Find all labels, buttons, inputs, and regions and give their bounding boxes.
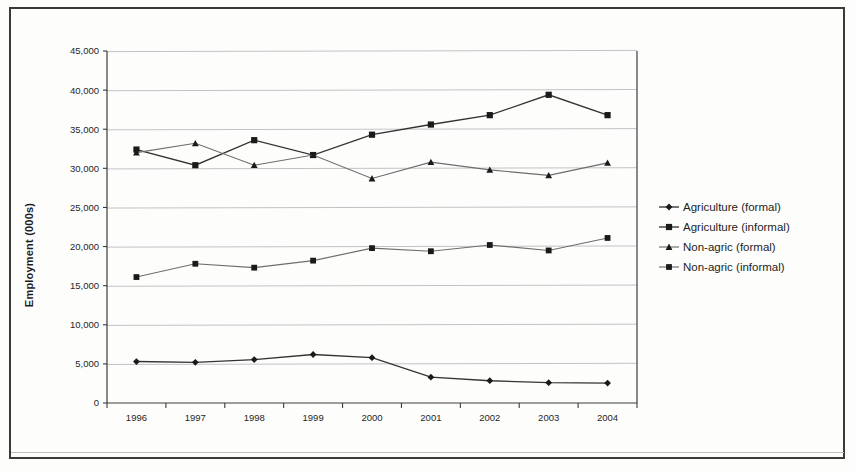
data-point [251,137,257,143]
data-point [133,358,140,365]
chart-page: Employment (000s) 05,00010,00015,00020,0… [0,0,855,472]
legend-marker-icon [666,224,672,230]
y-tick-label: 35,000 [70,124,99,135]
gridline [107,168,637,169]
gridline [107,90,637,91]
x-tick-label: 2001 [420,412,441,423]
gridline [107,207,637,208]
legend-label: Agriculture (informal) [683,221,790,233]
x-tick-label: 1999 [303,412,324,423]
data-point [192,140,199,146]
data-point [428,121,434,127]
y-tick-label: 30,000 [70,163,99,174]
y-tick-label: 5,000 [75,358,99,369]
x-tick-label: 2002 [479,412,500,423]
series-1 [133,351,611,386]
legend-label: Agriculture (formal) [683,201,781,213]
legend-label: Non-agric (formal) [683,241,776,253]
data-point [310,351,317,358]
gridline [107,129,637,130]
data-point [192,162,198,168]
data-point [605,235,611,241]
legend-marker-icon [666,264,672,270]
data-point [310,258,316,264]
y-axis-title: Employment (000s) [23,203,35,307]
legend-item-2[interactable]: Agriculture (informal) [659,221,790,233]
gridline [107,50,637,51]
data-point [369,354,376,361]
data-point [546,248,552,254]
data-point [604,159,611,165]
data-point [192,261,198,267]
chart-legend: Agriculture (formal)Agriculture (informa… [659,201,790,273]
legend-marker-icon [666,204,673,211]
data-point [487,242,493,248]
x-tick-label: 1997 [185,412,206,423]
data-point [487,112,493,118]
y-tick-label: 45,000 [70,45,99,56]
y-tick-label: 15,000 [70,280,99,291]
data-point [251,265,257,271]
x-tick-label: 2000 [361,412,382,423]
series-4 [134,235,611,280]
y-tick-label: 0 [94,397,99,408]
x-tick-label: 2004 [597,412,618,423]
y-tick-label: 25,000 [70,202,99,213]
x-tick-label: 2003 [538,412,559,423]
legend-item-1[interactable]: Agriculture (formal) [659,201,781,213]
data-point [369,245,375,251]
data-point [251,356,258,363]
legend-label: Non-agric (informal) [683,261,785,273]
series-line [136,238,607,277]
legend-item-3[interactable]: Non-agric (formal) [659,241,776,253]
data-point [369,132,375,138]
data-point [486,377,493,384]
data-point [604,112,610,118]
y-tick-label: 20,000 [70,241,99,252]
data-point [428,248,434,254]
data-point [546,92,552,98]
data-point [427,374,434,381]
series-layer [133,92,611,387]
x-tick-label: 1996 [126,412,147,423]
gridline [107,363,637,364]
y-tick-labels: 05,00010,00015,00020,00025,00030,00035,0… [70,45,107,408]
x-tick-label: 1998 [244,412,265,423]
y-tick-label: 10,000 [70,319,99,330]
gridline [107,324,637,325]
data-point [604,380,611,387]
chart-svg: Employment (000s) 05,00010,00015,00020,0… [0,0,855,472]
legend-item-4[interactable]: Non-agric (informal) [659,261,785,273]
y-tick-label: 40,000 [70,85,99,96]
data-point [545,379,552,386]
x-tick-labels: 199619971998199920002001200220032004 [107,403,637,423]
data-point [134,274,140,280]
gridline [107,285,637,286]
line-chart: Employment (000s) 05,00010,00015,00020,0… [0,0,855,472]
